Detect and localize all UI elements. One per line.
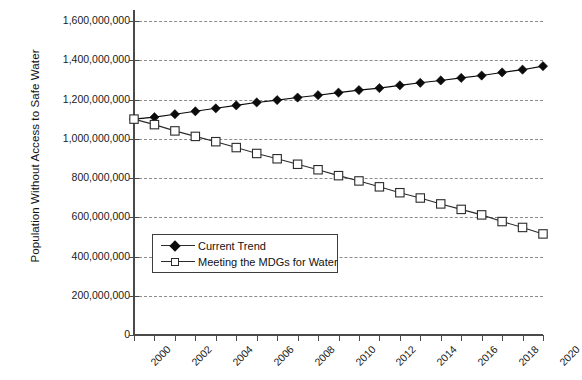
x-axis-tick-label: 2004 [230,343,255,368]
x-axis-tick-label: 2020 [557,343,582,368]
legend-label: Current Trend [198,240,266,252]
x-axis-tick-label: 2000 [148,343,173,368]
x-axis-tick-label: 2014 [434,343,459,368]
legend-label: Meeting the MDGs for Water [198,256,338,268]
legend-marker-open-square-icon [161,255,195,269]
x-axis-tick-label: 2008 [311,343,336,368]
x-axis-tick-label: 2018 [516,343,541,368]
legend-marker-filled-diamond-icon [161,239,195,253]
legend-item-current-trend[interactable]: Current Trend [161,238,266,254]
x-axis-tick-label: 2002 [189,343,214,368]
x-axis-tick-label: 2012 [393,343,418,368]
x-axis-tick-label: 2006 [271,343,296,368]
chart-legend: Current Trend Meeting the MDGs for Water [152,234,338,273]
x-axis-tick-label: 2010 [352,343,377,368]
legend-item-meeting-mdgs[interactable]: Meeting the MDGs for Water [161,254,338,270]
x-axis-tick-label: 2016 [475,343,500,368]
